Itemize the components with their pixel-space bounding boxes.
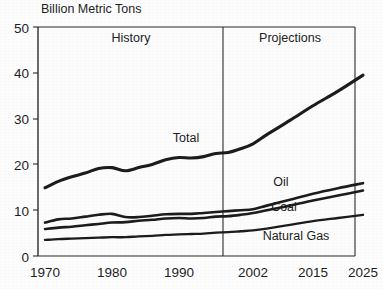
annotation-coal: Coal bbox=[271, 200, 297, 214]
annotation-projections: Projections bbox=[259, 31, 321, 45]
y-tick-label-10: 10 bbox=[14, 204, 29, 219]
annotation-natural-gas: Natural Gas bbox=[263, 229, 330, 243]
annotation-history: History bbox=[112, 31, 152, 45]
y-tick-label-0: 0 bbox=[21, 250, 29, 265]
x-tick-label-2015: 2015 bbox=[298, 265, 328, 280]
y-axis-ticks bbox=[33, 27, 38, 256]
x-tick-label-1970: 1970 bbox=[30, 265, 60, 280]
x-tick-label-2025: 2025 bbox=[348, 265, 378, 280]
y-axis-title: Billion Metric Tons bbox=[41, 2, 142, 16]
y-tick-label-20: 20 bbox=[14, 158, 29, 173]
line-chart-canvas: Billion Metric Tons 0 10 20 30 40 50 197… bbox=[0, 0, 383, 289]
x-tick-label-1980: 1980 bbox=[97, 265, 127, 280]
y-tick-label-40: 40 bbox=[14, 66, 29, 81]
chart-figure: Billion Metric Tons 0 10 20 30 40 50 197… bbox=[0, 0, 383, 289]
x-tick-label-2002: 2002 bbox=[238, 265, 268, 280]
x-tick-label-1990: 1990 bbox=[164, 265, 194, 280]
annotation-total: Total bbox=[173, 131, 199, 145]
y-tick-label-50: 50 bbox=[14, 21, 29, 36]
annotation-oil: Oil bbox=[273, 175, 288, 189]
y-tick-label-30: 30 bbox=[14, 112, 29, 127]
